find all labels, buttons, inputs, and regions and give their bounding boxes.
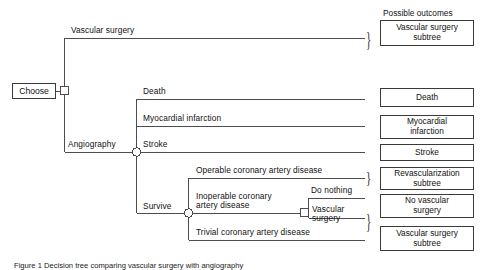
brace-vascular-surgery-subtree-top: } xyxy=(366,28,371,50)
brace-revascularization-subtree: } xyxy=(366,170,371,187)
choose-label: Choose xyxy=(19,86,49,96)
outcome-box-no-vascular-surgery[interactable]: No vascularsurgery xyxy=(380,194,474,218)
outcome-text: Revascularizationsubtree xyxy=(394,169,459,188)
outcome-box-death[interactable]: Death xyxy=(380,88,474,107)
outcome-text: Stroke xyxy=(415,148,439,158)
branch-label-do-nothing: Do nothing xyxy=(311,186,352,195)
outcome-box-stroke[interactable]: Stroke xyxy=(380,144,474,161)
branch-label-angiography: Angiography xyxy=(68,140,116,149)
possible-outcomes-header: Possible outcomes xyxy=(383,8,453,18)
outcome-text: Death xyxy=(416,93,438,103)
outcome-text: Vascular surgerysubtree xyxy=(396,229,458,248)
branch-label-survive: Survive xyxy=(143,202,171,211)
choose-decision-box[interactable]: Choose xyxy=(12,83,56,99)
branch-label-trivial-coronary-artery-disease: Trivial coronary artery disease xyxy=(196,228,310,237)
outcome-text: No vascularsurgery xyxy=(405,196,449,215)
branch-label-stroke: Stroke xyxy=(143,140,168,149)
branch-label-vascular-surgery: Vascular surgery xyxy=(71,26,134,35)
figure-caption: Figure 1 Decision tree comparing vascula… xyxy=(14,261,243,270)
outcome-box-vascular-surgery-subtree-top[interactable]: Vascular surgerysubtree xyxy=(380,20,474,46)
outcome-box-myocardial-infarction[interactable]: Myocardialinfarction xyxy=(380,115,474,139)
outcome-text: Vascular surgerysubtree xyxy=(396,23,458,42)
branch-label-myocardial-infarction: Myocardial infarction xyxy=(143,114,221,123)
outcome-text: Myocardialinfarction xyxy=(407,117,447,136)
brace-vascular-surgery-subtree-bottom: } xyxy=(366,210,371,232)
branch-label-inoperable-coronary-artery-disease-line2: artery disease xyxy=(196,201,250,210)
branch-label-operable-coronary-artery-disease: Operable coronary artery disease xyxy=(196,166,322,175)
branch-label-vascular-surgery-sub-line2: surgery xyxy=(312,214,340,223)
outcome-box-vascular-surgery-subtree-bottom[interactable]: Vascular surgerysubtree xyxy=(380,226,474,251)
outcome-box-revascularization-subtree[interactable]: Revascularizationsubtree xyxy=(380,167,474,190)
branch-label-death: Death xyxy=(143,87,166,96)
